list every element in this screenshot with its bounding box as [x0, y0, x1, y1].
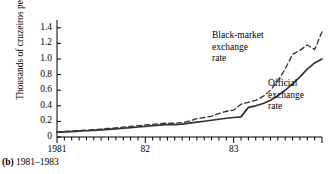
y-tick-label: 1.0	[30, 53, 52, 63]
y-tick-label: 1.4	[30, 22, 52, 32]
y-tick-label: 0.6	[30, 84, 52, 94]
figure-caption: (b) 1981–1983	[2, 157, 59, 167]
annotation-line: rate	[268, 101, 282, 111]
annotation-line: Black-market	[212, 30, 264, 40]
series-annotation-black-market: Black-marketexchangerate	[212, 30, 264, 65]
caption-marker: (b)	[2, 157, 14, 167]
annotation-line: exchange	[268, 90, 304, 100]
y-tick-label: 0.4	[30, 100, 52, 110]
y-tick-label: 0.8	[30, 69, 52, 79]
series-annotation-official: Officialexchangerate	[268, 78, 304, 113]
y-tick-label: 0	[30, 131, 52, 141]
caption-text: 1981–1983	[16, 157, 59, 167]
x-axis-ticks	[57, 137, 322, 143]
figure-panel: Thousands of cruzeiros per U.S. dollar 0…	[0, 0, 332, 174]
annotation-line: exchange	[212, 42, 248, 52]
x-tick-label: 83	[214, 144, 254, 154]
y-axis-ticks	[57, 28, 61, 137]
x-tick-label: 1981	[37, 144, 77, 154]
annotation-line: rate	[212, 53, 226, 63]
annotation-line: Official	[268, 78, 297, 88]
x-tick-label: 82	[125, 144, 165, 154]
y-tick-label: 1.2	[30, 37, 52, 47]
y-tick-label: 0.2	[30, 115, 52, 125]
